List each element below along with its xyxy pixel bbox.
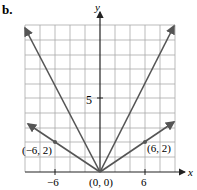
- x-label: x: [187, 166, 193, 178]
- y-tick: 5: [86, 93, 92, 107]
- x-tick-neg: −6: [47, 176, 59, 188]
- y-label: y: [94, 1, 100, 13]
- point-left: (−6, 2): [22, 144, 52, 157]
- point-right: (6, 2): [147, 142, 171, 155]
- x-tick: 6: [141, 176, 147, 188]
- graph: b. y x 5 −6 6 (0, 0) (−6, 2) (6, 2): [0, 0, 197, 190]
- panel-label: b.: [2, 2, 12, 17]
- origin-label: (0, 0): [89, 176, 113, 189]
